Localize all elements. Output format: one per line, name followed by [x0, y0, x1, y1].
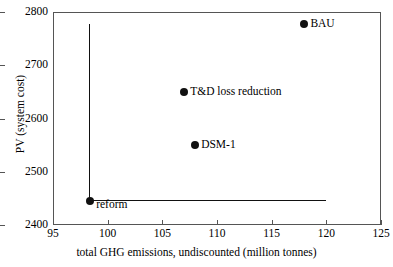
- data-point-label: T&D loss reduction: [190, 85, 281, 97]
- x-tick-mark: [217, 220, 218, 225]
- y-axis-title: PV (system cost): [14, 34, 26, 194]
- x-tick-label: 105: [142, 228, 182, 240]
- x-axis-title: total GHG emissions, undiscounted (milli…: [0, 246, 393, 258]
- y-tick-mark: [0, 65, 5, 66]
- x-tick-label: 125: [361, 228, 393, 240]
- scatter-chart-figure: 2800 2700 2600 2500 2400 95 100 105 110 …: [0, 0, 393, 267]
- x-tick-mark: [108, 220, 109, 225]
- plot-area: [53, 12, 381, 225]
- y-tick-label: 2600: [4, 113, 48, 125]
- x-tick-mark: [272, 220, 273, 225]
- x-tick-label: 115: [252, 228, 292, 240]
- y-tick-label: 2500: [4, 166, 48, 178]
- data-point-label: DSM-1: [201, 138, 236, 150]
- y-tick-mark: [0, 12, 5, 13]
- y-tick-label: 2800: [4, 6, 48, 18]
- x-tick-mark: [53, 220, 54, 225]
- data-point-label: reform: [96, 198, 127, 210]
- data-point-label: BAU: [310, 17, 334, 29]
- x-tick-label: 95: [33, 228, 73, 240]
- vertical-guide-line: [89, 24, 90, 201]
- y-tick-mark: [0, 172, 5, 173]
- x-tick-label: 120: [306, 228, 346, 240]
- x-tick-mark: [326, 220, 327, 225]
- x-tick-mark: [381, 220, 382, 225]
- x-tick-label: 100: [88, 228, 128, 240]
- y-tick-mark: [0, 119, 5, 120]
- x-tick-mark: [162, 220, 163, 225]
- x-tick-label: 110: [197, 228, 237, 240]
- y-tick-label: 2700: [4, 59, 48, 71]
- y-tick-mark: [0, 225, 5, 226]
